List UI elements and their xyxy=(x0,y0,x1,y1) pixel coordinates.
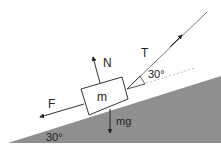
tension-angle-label: 30° xyxy=(148,68,165,80)
mass-label: m xyxy=(97,90,107,104)
friction-arrow xyxy=(40,104,84,117)
incline-diagram: m N T 30° F mg 30° xyxy=(0,0,221,146)
normal-force-arrow xyxy=(93,57,100,83)
tension-arrow xyxy=(170,35,182,47)
friction-label: F xyxy=(48,97,55,111)
normal-label: N xyxy=(103,56,112,70)
incline-angle-label: 30° xyxy=(46,131,63,143)
tension-label: T xyxy=(141,46,149,60)
tension-angle-arc xyxy=(127,76,145,89)
weight-label: mg xyxy=(116,115,131,127)
